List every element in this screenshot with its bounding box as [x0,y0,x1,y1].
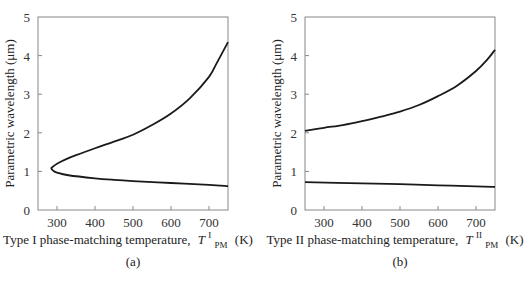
y-tick-label: 5 [24,10,31,25]
x-tick-label: 300 [314,215,334,230]
x-tick-label: 700 [199,215,219,230]
series-line-b-2 [305,182,495,187]
y-ticks-b: 012345 [291,10,310,218]
x-tick-label: 400 [85,215,105,230]
y-ticks-a: 012345 [24,10,43,218]
x-axis-symbol-b: T [466,232,474,247]
x-axis-superscript-a: I [208,230,211,240]
y-tick-label: 2 [291,126,298,141]
x-axis-unit-a: (K) [235,232,253,247]
panel-label-a: (a) [126,254,140,269]
x-tick-label: 600 [428,215,448,230]
series-line-a-1 [51,42,228,186]
x-tick-label: 300 [47,215,67,230]
y-tick-label: 1 [24,164,31,179]
y-tick-label: 4 [291,49,298,64]
x-axis-symbol-a: T [198,232,206,247]
chart-figure: 300400500600700 012345 Parametric wavele… [0,0,530,283]
y-axis-title-b: Parametric wavelength (μm) [269,39,284,187]
y-axis-title-a: Parametric wavelength (μm) [2,39,17,187]
curves-b [305,50,495,187]
plot-frame-b [305,17,495,210]
y-tick-label: 0 [291,203,298,218]
y-tick-label: 3 [24,87,31,102]
x-tick-label: 600 [161,215,181,230]
y-tick-label: 0 [24,203,31,218]
panel-label-b: (b) [392,254,407,269]
x-tick-label: 500 [390,215,410,230]
x-axis-title-text-b: Type II phase-matching temperature, [266,232,458,247]
y-tick-label: 2 [24,126,31,141]
x-axis-subscript-b: PM [485,240,498,250]
x-axis-subscript-a: PM [215,240,228,250]
x-axis-title-text-a: Type I phase-matching temperature, [3,232,191,247]
x-axis-superscript-b: II [476,230,482,240]
y-tick-label: 3 [291,87,298,102]
curves-a [51,42,228,186]
panel-a: 300400500600700 012345 Parametric wavele… [2,10,253,269]
x-axis-unit-b: (K) [506,232,524,247]
x-tick-label: 500 [123,215,143,230]
x-tick-label: 400 [352,215,372,230]
y-tick-label: 5 [291,10,298,25]
series-line-b-1 [305,50,495,131]
panel-b: 300400500600700 012345 Parametric wavele… [266,10,523,269]
y-tick-label: 4 [24,49,31,64]
y-tick-label: 1 [291,164,298,179]
